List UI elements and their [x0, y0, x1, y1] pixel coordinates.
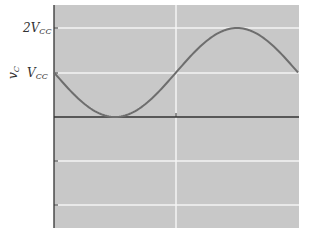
- tick-label-2vcc: 2VCC: [22, 21, 52, 36]
- y-axis-label: vC: [6, 66, 21, 79]
- tick-label-vcc: VCC: [27, 66, 48, 81]
- waveform-chart: 2VCC VCC vC: [0, 0, 319, 242]
